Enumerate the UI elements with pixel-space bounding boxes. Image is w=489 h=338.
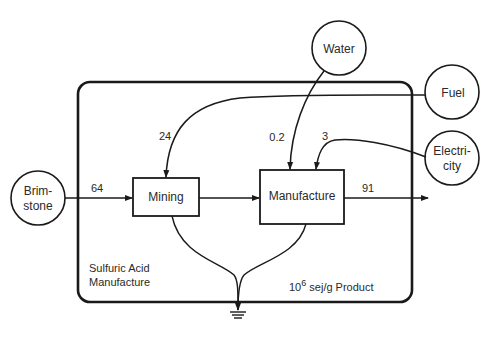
brimstone-label-line1: Brim-: [24, 184, 53, 198]
energy-systems-diagram: Water Fuel Electri- city Brim- stone Min…: [0, 0, 489, 338]
manufacture-process: Manufacture: [260, 170, 344, 224]
flow-label-0.2: 0.2: [269, 131, 284, 143]
heat-sink-icon: [230, 312, 246, 318]
electricity-label-line2: city: [443, 159, 461, 173]
units-rest: sej/g Product: [306, 281, 373, 293]
units-base: 10: [289, 281, 301, 293]
units-label: 106 sej/g Product: [289, 278, 374, 293]
flow-label-64: 64: [91, 182, 103, 194]
fuel-label: Fuel: [441, 86, 464, 100]
system-label-line1: Sulfuric Acid: [89, 262, 150, 274]
flow-fuel-mining: [166, 95, 425, 177]
brimstone-label-line2: stone: [23, 199, 53, 213]
manufacture-label: Manufacture: [269, 189, 336, 203]
flow-label-91: 91: [362, 182, 374, 194]
electricity-label-line1: Electri-: [433, 144, 470, 158]
mining-label: Mining: [148, 190, 183, 204]
flow-label-24: 24: [159, 130, 171, 142]
water-source: Water: [312, 21, 366, 75]
mining-process: Mining: [133, 178, 199, 216]
electricity-source: Electri- city: [425, 131, 479, 185]
fuel-source: Fuel: [425, 65, 479, 119]
flow-label-3: 3: [322, 130, 328, 142]
flow-manufacture-heat-sink: [238, 224, 306, 310]
water-label: Water: [323, 42, 355, 56]
flow-electricity-manufacture: [316, 140, 426, 169]
system-label-line2: Manufacture: [89, 276, 150, 288]
brimstone-source: Brim- stone: [11, 171, 65, 225]
flow-mining-heat-sink: [172, 216, 238, 310]
